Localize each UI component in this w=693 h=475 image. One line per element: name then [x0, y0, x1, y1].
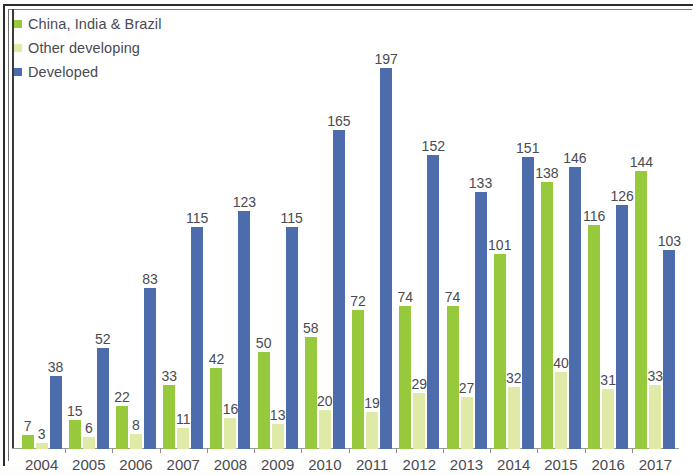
x-axis-label-2016: 2016: [585, 456, 632, 473]
bar-value-label: 11: [176, 412, 191, 427]
bar-value-label: 19: [364, 396, 380, 411]
bar-value-label: 74: [398, 290, 414, 305]
legend-item-china_india_brazil: China, India & Brazil: [14, 13, 161, 34]
bar-2006-series-2[interactable]: 83: [144, 288, 156, 449]
bar-2007-series-0[interactable]: 33: [163, 385, 175, 449]
x-axis-label-2008: 2008: [207, 456, 254, 473]
bar-value-label: 7: [24, 419, 32, 434]
legend-swatch-icon: [14, 44, 22, 52]
x-axis-tick-labels: 2004200520062007200820092010201120122013…: [18, 456, 679, 475]
bar-2014-series-2[interactable]: 151: [522, 157, 534, 449]
bar-2008-series-1[interactable]: 16: [224, 418, 236, 449]
bar-value-label: 50: [256, 336, 272, 351]
bar-value-label: 116: [583, 209, 605, 224]
bar-2004-series-1[interactable]: 3: [36, 443, 48, 449]
x-axis-tick: [396, 448, 397, 453]
bar-value-label: 83: [142, 272, 158, 287]
x-axis-label-2010: 2010: [301, 456, 348, 473]
bar-value-label: 101: [488, 238, 511, 253]
x-axis-label-2012: 2012: [396, 456, 443, 473]
bar-2009-series-1[interactable]: 13: [272, 424, 284, 449]
bar-2012-series-2[interactable]: 152: [427, 155, 439, 449]
bar-2013-series-1[interactable]: 27: [461, 397, 473, 449]
bar-2013-series-2[interactable]: 133: [475, 192, 487, 449]
legend-swatch-icon: [14, 68, 22, 76]
bar-value-label: 165: [327, 114, 350, 129]
bar-value-label: 16: [223, 402, 239, 417]
bar-2011-series-1[interactable]: 19: [366, 412, 378, 449]
bar-2014-series-1[interactable]: 32: [508, 387, 520, 449]
bar-2011-series-2[interactable]: 197: [380, 68, 392, 449]
bar-2011-series-0[interactable]: 72: [352, 310, 364, 449]
bar-group-2012: 7429152: [396, 9, 443, 449]
bar-group-2014: 10132151: [490, 9, 537, 449]
bar-2006-series-1[interactable]: 8: [130, 434, 142, 449]
bar-value-label: 152: [422, 139, 445, 154]
bar-value-label: 3: [38, 427, 46, 442]
bar-value-label: 27: [459, 381, 475, 396]
bar-2009-series-0[interactable]: 50: [258, 352, 270, 449]
bar-value-label: 32: [506, 371, 522, 386]
x-axis-tick: [585, 448, 586, 453]
bar-2017-series-1[interactable]: 33: [649, 385, 661, 449]
x-axis-tick: [537, 448, 538, 453]
bar-value-label: 74: [445, 290, 461, 305]
bar-2008-series-2[interactable]: 123: [238, 211, 250, 449]
bar-2010-series-0[interactable]: 58: [305, 337, 317, 449]
x-axis-label-2015: 2015: [537, 456, 584, 473]
bar-2013-series-0[interactable]: 74: [447, 306, 459, 449]
bar-2016-series-0[interactable]: 116: [588, 225, 600, 449]
x-axis-label-2004: 2004: [18, 456, 65, 473]
bar-2015-series-2[interactable]: 146: [569, 167, 581, 449]
bar-2004-series-0[interactable]: 7: [22, 435, 34, 449]
bar-value-label: 126: [610, 189, 633, 204]
bar-2005-series-2[interactable]: 52: [97, 348, 109, 449]
bar-2012-series-0[interactable]: 74: [399, 306, 411, 449]
bar-value-label: 38: [48, 360, 64, 375]
legend-item-label: Other developing: [28, 40, 140, 56]
bar-value-label: 40: [553, 356, 569, 371]
x-axis-tick: [632, 448, 633, 453]
bar-group-2016: 11631126: [585, 9, 632, 449]
bar-2006-series-0[interactable]: 22: [116, 406, 128, 449]
bar-2017-series-2[interactable]: 103: [663, 250, 675, 449]
bar-value-label: 52: [95, 332, 111, 347]
bar-2010-series-2[interactable]: 165: [333, 130, 345, 449]
bar-group-2008: 4216123: [207, 9, 254, 449]
x-axis-tick: [301, 448, 302, 453]
x-axis-tick: [443, 448, 444, 453]
bar-value-label: 103: [658, 234, 681, 249]
bar-2010-series-1[interactable]: 20: [319, 410, 331, 449]
bar-2012-series-1[interactable]: 29: [413, 393, 425, 449]
bar-2015-series-1[interactable]: 40: [555, 372, 567, 449]
chart-legend: China, India & BrazilOther developingDev…: [14, 13, 161, 85]
bar-value-label: 8: [132, 418, 140, 433]
x-axis-tick: [160, 448, 161, 453]
x-axis-tick: [65, 448, 66, 453]
bar-value-label: 115: [186, 211, 208, 226]
bar-2005-series-1[interactable]: 6: [83, 437, 95, 449]
bar-2005-series-0[interactable]: 15: [69, 420, 81, 449]
bar-2017-series-0[interactable]: 144: [635, 171, 647, 449]
bar-2015-series-0[interactable]: 138: [541, 182, 553, 449]
bar-2009-series-2[interactable]: 115: [286, 227, 298, 449]
bar-2014-series-0[interactable]: 101: [494, 254, 506, 449]
bar-value-label: 115: [280, 211, 302, 226]
x-axis-tick: [349, 448, 350, 453]
bar-2016-series-2[interactable]: 126: [616, 205, 628, 449]
bar-2007-series-2[interactable]: 115: [191, 227, 203, 449]
bar-2016-series-1[interactable]: 31: [602, 389, 614, 449]
legend-item-label: China, India & Brazil: [28, 16, 161, 32]
bar-2007-series-1[interactable]: 11: [177, 428, 189, 449]
x-axis-label-2013: 2013: [443, 456, 490, 473]
x-axis-label-2014: 2014: [490, 456, 537, 473]
bar-2008-series-0[interactable]: 42: [210, 368, 222, 449]
bar-value-label: 42: [209, 352, 225, 367]
legend-swatch-icon: [14, 20, 22, 28]
bar-value-label: 138: [535, 166, 558, 181]
bar-2004-series-2[interactable]: 38: [50, 376, 62, 449]
bar-value-label: 197: [374, 52, 397, 67]
bar-value-label: 33: [161, 369, 177, 384]
legend-item-other_developing: Other developing: [14, 37, 161, 58]
